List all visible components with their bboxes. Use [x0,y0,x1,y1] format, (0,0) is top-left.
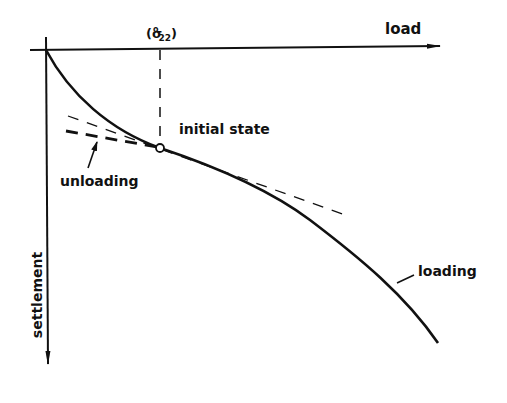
stress-marker-label: (σo22) [146,26,177,43]
initial-state-point [156,144,164,152]
unloading-label: unloading [60,174,139,188]
load-settlement-diagram: load (σo22) initial state unloading load… [0,0,507,403]
load-axis [30,46,440,50]
loading-label: loading [418,264,477,278]
initial-state-label: initial state [179,122,270,136]
loading-curve [46,50,438,343]
settlement-axis [46,37,48,364]
diagram-canvas [0,0,507,403]
stress-subscript: 22 [159,33,172,43]
unloading-dashed-line [66,131,157,147]
settlement-axis-label: settlement [30,245,44,345]
load-axis-label: load [385,22,421,37]
loading-pointer [397,275,414,283]
unloading-pointer-arrow [88,142,97,168]
